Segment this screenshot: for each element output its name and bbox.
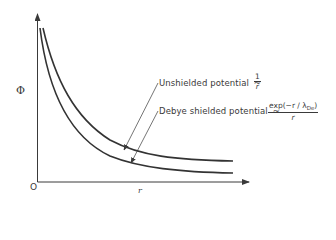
unshielded-formula-numerator: 1 xyxy=(254,73,261,81)
unshielded-label-text: Unshielded potential xyxy=(159,78,249,88)
debye-numerator-close: ) xyxy=(314,101,317,110)
unshielded-formula: 1 r xyxy=(254,73,261,91)
y-axis-label: Φ xyxy=(16,84,25,97)
unshielded-leader-arrow xyxy=(124,83,158,150)
debye-formula-denominator: r xyxy=(292,113,295,122)
debye-potential-label: Debye shielded potential ~ xyxy=(159,106,280,116)
debye-formula-numerator: exp(−r / λDe) xyxy=(268,102,318,112)
x-axis-label: r xyxy=(138,186,142,195)
origin-label: O xyxy=(30,182,37,192)
debye-label-text: Debye shielded potential xyxy=(159,106,268,116)
debye-formula: exp(−r / λDe) r xyxy=(268,102,318,122)
debye-numerator-main: exp(−r / λ xyxy=(269,101,307,110)
unshielded-formula-denominator: r xyxy=(256,82,259,91)
unshielded-potential-curve xyxy=(43,28,233,161)
unshielded-potential-label: Unshielded potential ~ xyxy=(159,78,261,88)
